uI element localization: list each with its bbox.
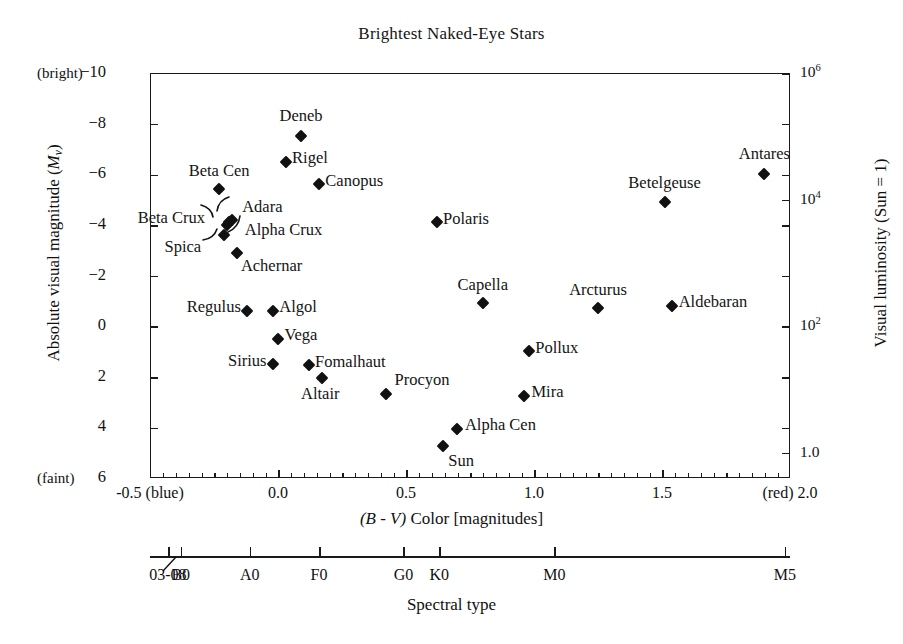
x-minor-tick-mark	[214, 473, 215, 477]
x-minor-tick-mark	[637, 473, 638, 477]
y-tick-mark-right	[782, 428, 789, 430]
y-tick-mark-right	[782, 175, 789, 177]
x-minor-tick-mark	[202, 473, 203, 477]
star-label: Aldebaran	[679, 294, 748, 311]
star-label: Alpha Cen	[465, 417, 536, 434]
y-tick-mark-right	[782, 377, 789, 379]
x-tick-mark	[662, 470, 664, 477]
x-axis-title-math: (B - V)	[360, 509, 406, 528]
star-label: Adara	[242, 199, 282, 216]
star-label: Rigel	[292, 150, 328, 167]
x-minor-tick-mark	[688, 473, 689, 477]
x-minor-tick-mark	[240, 473, 241, 477]
star-label: Spica	[165, 239, 202, 256]
x-minor-tick-mark	[509, 473, 510, 477]
x-minor-tick-mark	[611, 473, 612, 477]
x-minor-tick-mark	[560, 473, 561, 477]
x-minor-tick-mark	[419, 473, 420, 477]
star-label: Beta Cen	[189, 163, 250, 180]
y-edge-annotation: (faint)	[37, 470, 74, 487]
x-tick-label: 0.0	[268, 484, 288, 502]
x-minor-tick-mark	[355, 473, 356, 477]
x-minor-tick-mark	[547, 473, 548, 477]
x-minor-tick-mark	[330, 473, 331, 477]
spectral-tick-label: M0	[543, 566, 565, 584]
star-label: Antares	[739, 146, 790, 163]
x-minor-tick-mark	[227, 473, 228, 477]
x-axis-title-rest: Color [magnitudes]	[406, 509, 543, 528]
x-minor-tick-mark	[470, 473, 471, 477]
x-minor-tick-mark	[291, 473, 292, 477]
y-tick-mark-right	[782, 124, 789, 126]
y2-tick-label: 102	[800, 317, 821, 333]
star-label: Alpha Crux	[245, 222, 322, 239]
star-label: Vega	[284, 327, 317, 344]
y2-tick-mark	[782, 200, 789, 202]
y-axis-title: Absolute visual magnitude (Mv)	[44, 43, 64, 463]
y-tick-mark	[151, 124, 158, 126]
x-axis-title: (B - V) Color [magnitudes]	[0, 509, 903, 529]
star-label: Betelgeuse	[628, 175, 700, 192]
x-minor-tick-mark	[701, 473, 702, 477]
y2-tick-mark	[782, 453, 789, 455]
x-minor-tick-mark	[726, 473, 727, 477]
star-label: Capella	[458, 277, 508, 294]
x-minor-tick-mark	[189, 473, 190, 477]
y2-tick-label: 1.0	[800, 444, 819, 460]
star-label: Polaris	[443, 211, 489, 228]
x-minor-tick-mark	[624, 473, 625, 477]
x-minor-tick-mark	[778, 473, 779, 477]
spectral-tick-label: K0	[429, 566, 449, 584]
x-minor-tick-mark	[752, 473, 753, 477]
y-axis-title-text: Absolute visual magnitude (Mv)	[44, 144, 63, 361]
x-minor-tick-mark	[445, 473, 446, 477]
y2-tick-mark	[782, 326, 789, 328]
x-minor-tick-mark	[394, 473, 395, 477]
star-label: Algol	[279, 299, 317, 316]
x-minor-tick-mark	[342, 473, 343, 477]
star-label: Arcturus	[569, 282, 627, 299]
x-minor-tick-mark	[368, 473, 369, 477]
x-minor-tick-mark	[176, 473, 177, 477]
spectral-tick-label: A0	[240, 566, 260, 584]
x-minor-tick-mark	[266, 473, 267, 477]
star-label: Pollux	[535, 340, 578, 357]
y2-tick-label: 104	[800, 191, 821, 207]
y-tick-mark-right	[782, 276, 789, 278]
x-minor-tick-mark	[317, 473, 318, 477]
x-minor-tick-mark	[598, 473, 599, 477]
x-tick-label: 0.5	[396, 484, 416, 502]
x-minor-tick-mark	[496, 473, 497, 477]
star-label: Regulus	[187, 299, 241, 316]
spectral-tick-label: B0	[171, 566, 190, 584]
y2-axis-title: Visual luminosity (Sun = 1)	[871, 43, 891, 463]
star-label: Achernar	[241, 258, 302, 275]
x-minor-tick-mark	[381, 473, 382, 477]
star-label: Fomalhaut	[315, 354, 386, 371]
star-label: Sun	[448, 453, 474, 470]
x-minor-tick-mark	[483, 473, 484, 477]
y2-tick-mark	[782, 73, 789, 75]
y2-tick-label: 106	[800, 64, 821, 80]
x-minor-tick-mark	[739, 473, 740, 477]
x-minor-tick-mark	[458, 473, 459, 477]
x-minor-tick-mark	[765, 473, 766, 477]
star-label: Deneb	[279, 108, 322, 125]
x-minor-tick-mark	[304, 473, 305, 477]
star-label: Beta Crux	[138, 210, 205, 227]
x-tick-label: (red) 2.0	[762, 484, 817, 502]
x-tick-mark	[278, 470, 280, 477]
spectral-tick-label: F0	[311, 566, 328, 584]
x-minor-tick-mark	[573, 473, 574, 477]
spectral-pointer-line	[0, 540, 903, 600]
spectral-axis-title: Spectral type	[0, 595, 903, 615]
x-minor-tick-mark	[522, 473, 523, 477]
star-label: Altair	[301, 386, 340, 403]
x-minor-tick-mark	[586, 473, 587, 477]
x-tick-mark	[534, 470, 536, 477]
page-title: Brightest Naked-Eye Stars	[0, 24, 903, 44]
y-tick-mark-right	[782, 225, 789, 227]
x-tick-label: -0.5 (blue)	[116, 484, 184, 502]
spectral-tick-label: M5	[774, 566, 796, 584]
x-minor-tick-mark	[432, 473, 433, 477]
